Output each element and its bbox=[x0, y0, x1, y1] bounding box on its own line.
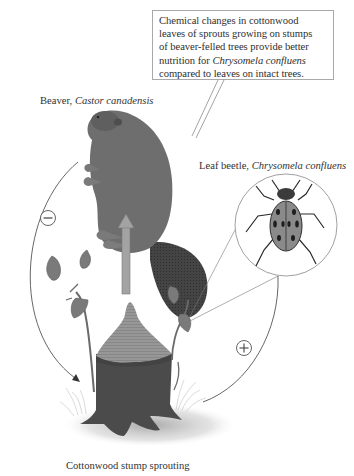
ecology-diagram bbox=[0, 0, 354, 476]
minus-circle-icon bbox=[41, 211, 56, 226]
left-sprout bbox=[47, 250, 94, 392]
plus-circle-icon bbox=[237, 341, 252, 356]
benefit-up-arrow bbox=[118, 214, 134, 294]
beaver-illustration bbox=[84, 110, 208, 318]
negative-arrowhead bbox=[72, 374, 80, 382]
beetle-magnified-view bbox=[235, 174, 337, 276]
callout-pointer bbox=[192, 80, 224, 138]
cottonwood-stump bbox=[80, 302, 182, 436]
